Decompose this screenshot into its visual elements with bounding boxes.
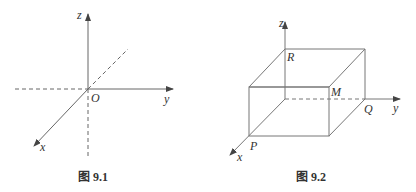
x-label: x <box>39 140 46 154</box>
point-Q-label: Q <box>364 102 373 116</box>
point-R-label: R <box>286 50 295 64</box>
caption-9-1: 图 9.1 <box>78 170 108 184</box>
z-label: z <box>76 8 82 22</box>
neg-x-dashed <box>88 49 128 89</box>
diagram-canvas: z O y x 图 9.1 z R M Q y P x 图 9.2 <box>0 0 416 192</box>
point-M-label: M <box>330 85 342 99</box>
origin-label: O <box>91 91 100 105</box>
y-label: y <box>163 92 170 106</box>
figure-9-2 <box>230 22 400 155</box>
z-label: z <box>278 16 284 30</box>
figure-9-1 <box>15 14 173 158</box>
caption-9-2: 图 9.2 <box>296 170 326 184</box>
x-label: x <box>236 150 243 164</box>
x-axis <box>34 89 88 146</box>
box-front-face <box>249 87 329 136</box>
y-label: y <box>392 101 399 115</box>
box-top-face <box>249 49 365 87</box>
x-axis <box>230 99 285 155</box>
point-P-label: P <box>249 139 258 153</box>
box-bottom-right-edge <box>329 99 365 136</box>
